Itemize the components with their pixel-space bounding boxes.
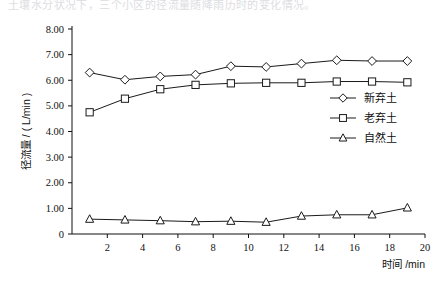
x-tick-label: 8 (211, 242, 216, 253)
x-tick-label: 10 (243, 242, 254, 253)
legend-label-triangle: 自然土 (364, 131, 397, 144)
data-point-triangle (403, 203, 411, 211)
data-point-square (404, 79, 411, 86)
x-axis-title: 时间 /min (382, 258, 425, 270)
series-line-square (90, 82, 408, 113)
data-point-square (368, 78, 375, 85)
data-point-diamond (226, 62, 235, 71)
data-point-triangle (156, 216, 164, 224)
data-point-square (333, 78, 340, 85)
series-line-triangle (90, 208, 408, 222)
data-point-triangle (227, 217, 235, 225)
data-point-square (157, 86, 164, 93)
legend-marker-diamond (339, 94, 347, 102)
x-tick-label: 4 (140, 242, 146, 253)
data-point-diamond (191, 70, 200, 79)
legend-label-square: 老弃土 (364, 111, 397, 124)
x-tick-label: 12 (279, 242, 290, 253)
data-point-square (227, 80, 234, 87)
legend-marker-square (340, 115, 347, 122)
data-point-triangle (86, 215, 94, 223)
legend-label-diamond: 新弃土 (364, 91, 397, 104)
data-point-diamond (262, 63, 271, 72)
data-point-square (86, 109, 93, 116)
chart-page: 土壤水分状况下，三个小区的径流量随降雨历时的变化情况。 01.002.003.0… (0, 0, 443, 289)
legend-marker-triangle (339, 134, 347, 141)
data-point-triangle (333, 210, 341, 218)
data-point-triangle (297, 212, 305, 220)
y-tick-label: 0 (59, 229, 64, 240)
data-point-diamond (403, 57, 412, 66)
data-point-square (298, 79, 305, 86)
y-tick-label: 3.00 (46, 152, 64, 163)
series-line-diamond (90, 60, 408, 79)
x-tick-label: 16 (349, 242, 360, 253)
y-tick-label: 8.00 (46, 24, 64, 35)
x-tick-label: 20 (420, 242, 431, 253)
y-tick-label: 1.00 (46, 203, 64, 214)
data-point-diamond (368, 57, 377, 66)
data-point-square (263, 79, 270, 86)
y-axis-title: 径流量 / ( L/min ) (20, 93, 32, 170)
data-point-square (121, 95, 128, 102)
data-point-triangle (192, 217, 200, 225)
y-tick-label: 6.00 (46, 75, 64, 86)
y-tick-label: 7.00 (46, 49, 64, 60)
x-tick-label: 14 (314, 242, 325, 253)
y-tick-label: 2.00 (46, 177, 64, 188)
x-tick-label: 2 (105, 242, 110, 253)
y-tick-label: 5.00 (46, 100, 64, 111)
runoff-line-chart: 01.002.003.004.005.006.007.008.002468101… (0, 0, 443, 289)
data-point-square (192, 81, 199, 88)
x-tick-label: 18 (384, 242, 395, 253)
chart-svg: 01.002.003.004.005.006.007.008.002468101… (0, 0, 443, 289)
data-point-diamond (297, 59, 306, 68)
data-point-diamond (121, 75, 130, 84)
data-point-diamond (156, 72, 165, 81)
data-point-diamond (332, 56, 341, 65)
x-tick-label: 6 (175, 242, 180, 253)
data-point-diamond (85, 68, 94, 77)
y-tick-label: 4.00 (46, 126, 64, 137)
data-point-triangle (121, 216, 129, 224)
